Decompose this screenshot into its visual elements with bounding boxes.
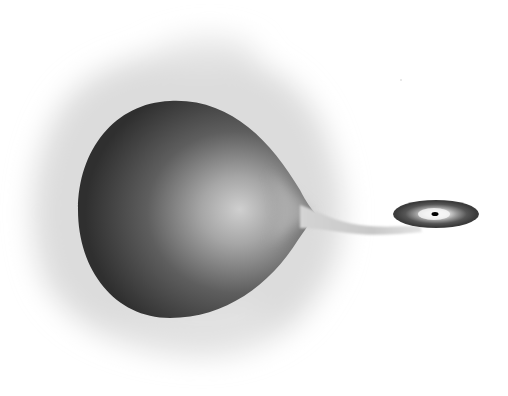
compact-object: [432, 212, 439, 216]
binary-star-illustration: [0, 0, 508, 396]
speck: [400, 79, 402, 81]
